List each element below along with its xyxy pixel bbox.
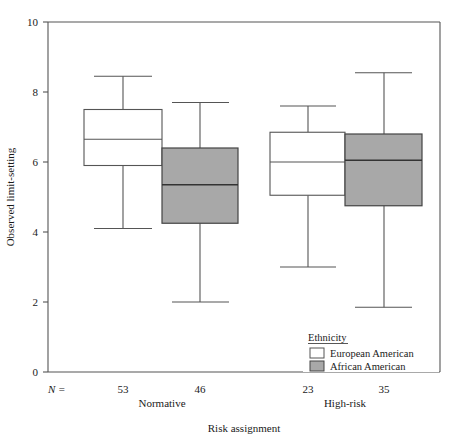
n-value-normative-european: 53 bbox=[118, 383, 130, 395]
y-tick-label-8: 8 bbox=[33, 86, 39, 98]
legend-swatch-african-american bbox=[310, 361, 324, 371]
y-axis-title: Observed limit-setting bbox=[4, 147, 16, 246]
y-tick-label-2: 2 bbox=[33, 296, 39, 308]
y-tick-label-0: 0 bbox=[33, 366, 39, 378]
n-value-highrisk-european: 23 bbox=[303, 383, 315, 395]
box-plot-european-american-high-risk bbox=[270, 106, 345, 267]
box-plot-african-american-high-risk bbox=[345, 73, 422, 308]
legend-label-african-american: African American bbox=[330, 361, 406, 372]
n-prefix-label: N = bbox=[47, 383, 66, 395]
y-tick-label-6: 6 bbox=[33, 156, 39, 168]
legend-swatch-european-american bbox=[310, 348, 324, 358]
box-plot-african-american-normative bbox=[162, 103, 238, 303]
legend-title: Ethnicity bbox=[308, 332, 347, 343]
x-group-label-normative: Normative bbox=[138, 397, 185, 409]
plot-svg: 0 2 4 6 8 10 Observed limit-setting bbox=[0, 0, 453, 441]
box-plot-chart: 0 2 4 6 8 10 Observed limit-setting bbox=[0, 0, 453, 441]
n-value-normative-african: 46 bbox=[195, 383, 207, 395]
y-tick-label-4: 4 bbox=[33, 226, 39, 238]
y-axis-ticks bbox=[43, 22, 48, 372]
n-value-highrisk-african: 35 bbox=[379, 383, 391, 395]
y-tick-label-10: 10 bbox=[27, 16, 39, 28]
x-axis-title: Risk assignment bbox=[208, 422, 280, 434]
box-plot-european-american-normative bbox=[84, 76, 162, 228]
legend: Ethnicity European American African Amer… bbox=[303, 330, 439, 372]
x-group-label-high-risk: High-risk bbox=[324, 397, 367, 409]
legend-label-european-american: European American bbox=[330, 348, 414, 359]
